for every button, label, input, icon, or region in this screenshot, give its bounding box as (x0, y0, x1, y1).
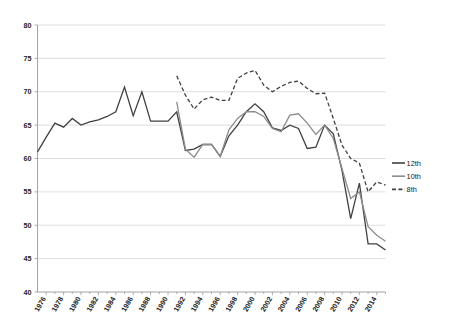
chart-canvas: 404550556065707580 197619781980198219841… (0, 0, 454, 336)
y-tick-label: 45 (24, 254, 32, 263)
plot-background (0, 0, 454, 336)
legend-label-12th[interactable]: 12th (407, 159, 421, 168)
y-tick-label: 70 (24, 87, 32, 96)
legend-label-8th[interactable]: 8th (407, 185, 417, 194)
y-tick-label: 50 (24, 221, 32, 230)
y-tick-label: 75 (24, 54, 32, 63)
legend-label-10th[interactable]: 10th (407, 172, 421, 181)
y-tick-label: 65 (24, 121, 32, 130)
y-tick-label: 60 (24, 154, 32, 163)
line-chart-figure: 404550556065707580 197619781980198219841… (0, 0, 454, 336)
y-tick-label: 80 (24, 21, 32, 30)
y-tick-label: 40 (24, 288, 32, 297)
y-tick-label: 55 (24, 187, 32, 196)
